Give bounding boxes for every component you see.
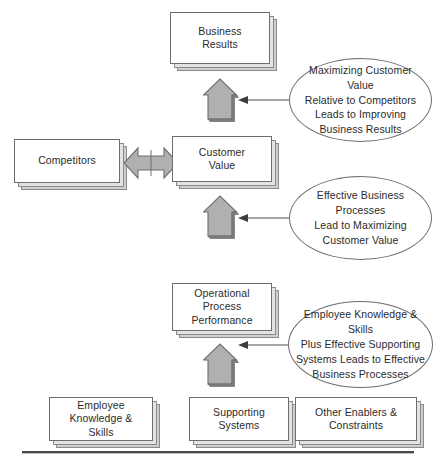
box-operational-process-performance: Operational Process Performance bbox=[172, 283, 272, 331]
up-arrow-to-business-results bbox=[203, 77, 239, 122]
connector-arrow-bottom bbox=[238, 337, 294, 353]
diagram-canvas: Business Results Maximizing Customer Val… bbox=[0, 0, 434, 465]
box-label-other-enablers-constraints: Other Enablers & Constraints bbox=[295, 397, 417, 441]
box-other-enablers-constraints: Other Enablers & Constraints bbox=[295, 397, 417, 441]
box-customer-value: Customer Value bbox=[172, 136, 272, 182]
figure-divider-rule bbox=[22, 451, 414, 453]
box-label-business-results: Business Results bbox=[170, 12, 270, 64]
up-arrow-to-customer-value bbox=[203, 194, 239, 239]
ellipse-middle-text: Effective Business Processes Lead to Max… bbox=[290, 177, 431, 259]
box-label-operational-process-performance: Operational Process Performance bbox=[172, 283, 272, 331]
box-label-competitors: Competitors bbox=[14, 139, 120, 183]
ellipse-middle-statement: Effective Business Processes Lead to Max… bbox=[289, 176, 432, 260]
box-label-customer-value: Customer Value bbox=[172, 136, 272, 182]
box-employee-knowledge-skills: Employee Knowledge & Skills bbox=[49, 397, 153, 441]
box-label-supporting-systems: Supporting Systems bbox=[189, 397, 289, 441]
connector-arrow-top bbox=[238, 92, 294, 108]
double-headed-arrow-competitors-customer-value bbox=[124, 143, 178, 183]
box-supporting-systems: Supporting Systems bbox=[189, 397, 289, 441]
ellipse-bottom-statement: Employee Knowledge & Skills Plus Effecti… bbox=[288, 301, 433, 388]
figure-caption-clipped bbox=[22, 456, 414, 465]
box-business-results: Business Results bbox=[170, 12, 270, 64]
ellipse-top-statement: Maximizing Customer Value Relative to Co… bbox=[289, 58, 432, 142]
connector-arrow-middle bbox=[238, 210, 294, 226]
up-arrow-to-operational-process bbox=[203, 342, 239, 387]
ellipse-bottom-text: Employee Knowledge & Skills Plus Effecti… bbox=[289, 302, 432, 387]
ellipse-top-text: Maximizing Customer Value Relative to Co… bbox=[290, 59, 431, 141]
box-competitors: Competitors bbox=[14, 139, 120, 183]
box-label-employee-knowledge-skills: Employee Knowledge & Skills bbox=[49, 397, 153, 441]
